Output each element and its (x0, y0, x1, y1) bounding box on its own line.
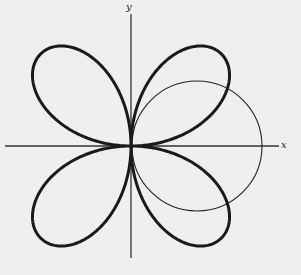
y-axis-label: y (126, 1, 132, 12)
diagram-canvas (0, 0, 301, 275)
x-axis-label: x (281, 139, 287, 150)
